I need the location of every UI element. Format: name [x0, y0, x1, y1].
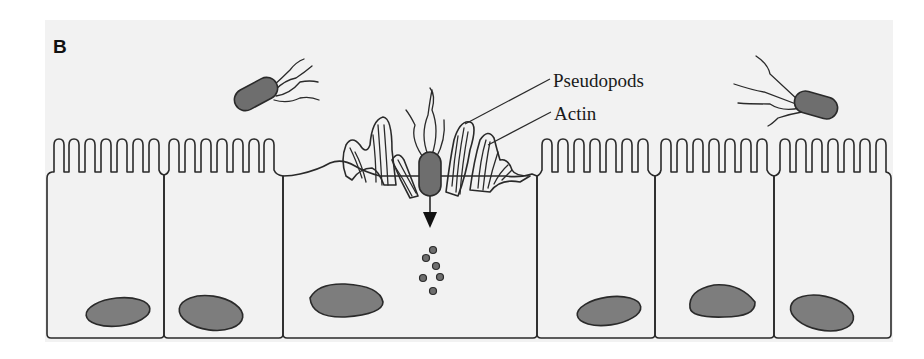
bacterial-invasion-diagram: B [0, 0, 924, 359]
nucleus-3 [310, 284, 383, 317]
vesicle [437, 274, 444, 281]
vesicle [433, 263, 440, 270]
pseudopods-label: Pseudopods [553, 70, 644, 91]
vesicle [423, 255, 430, 262]
bacterium-body [419, 152, 441, 196]
panel-background [45, 20, 893, 342]
vesicle [430, 247, 437, 254]
actin-label: Actin [554, 103, 597, 124]
panel-label: B [53, 36, 67, 57]
vesicle [430, 288, 437, 295]
vesicle [420, 275, 427, 282]
